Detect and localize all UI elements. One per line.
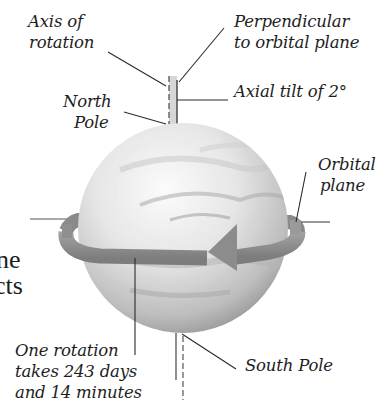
label-one-rotation-3: and 14 minutes <box>15 383 142 402</box>
label-north-pole-2: Pole <box>74 113 109 132</box>
north-axis-segment <box>169 76 177 126</box>
planet-sphere <box>78 123 288 333</box>
label-axial-tilt: Axial tilt of 2° <box>234 82 347 101</box>
label-one-rotation-1: One rotation <box>15 341 119 360</box>
south-axis-segment <box>176 333 183 400</box>
label-one-rotation-2: takes 243 days <box>15 362 137 381</box>
label-axis-of-rotation-1: Axis of <box>28 12 83 31</box>
clipped-body-text-line-2: cts <box>0 271 23 301</box>
label-axis-of-rotation-2: rotation <box>29 33 94 52</box>
label-perpendicular-2: to orbital plane <box>234 33 359 52</box>
label-orbital-plane-2: plane <box>320 176 365 195</box>
label-south-pole: South Pole <box>245 356 333 375</box>
label-orbital-plane-1: Orbital <box>318 155 376 174</box>
label-north-pole-1: North <box>63 92 112 111</box>
label-perpendicular-1: Perpendicular <box>234 12 349 31</box>
